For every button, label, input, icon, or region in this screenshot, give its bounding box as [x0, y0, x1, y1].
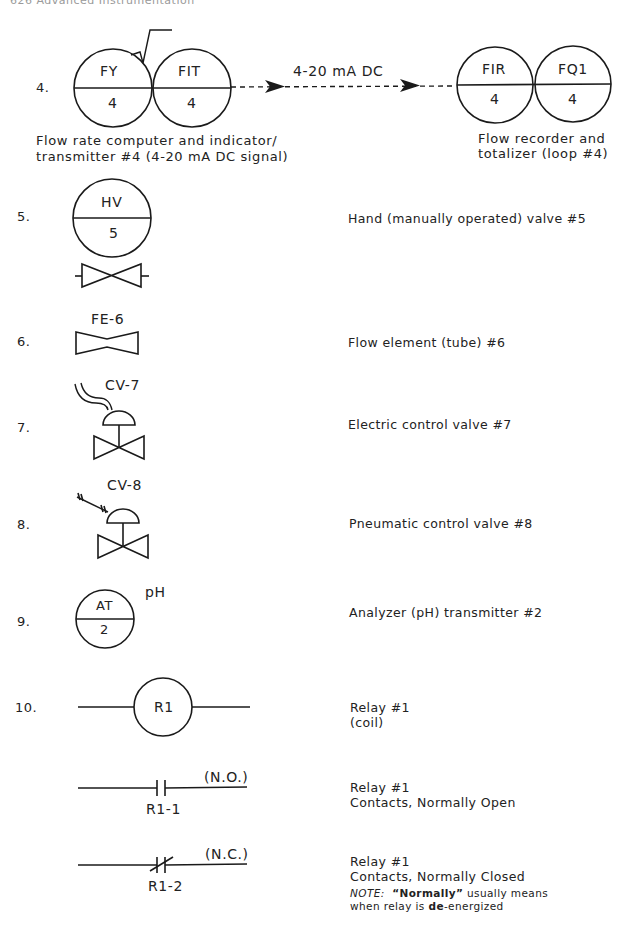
description-pneumatic-control-valve: Pneumatic control valve #8	[349, 516, 533, 531]
cv-8-label: CV-8	[107, 477, 142, 493]
hv-loop: 5	[109, 225, 119, 241]
fir-loop: 4	[490, 91, 500, 107]
at-tag: AT	[96, 598, 113, 614]
nc-contact-line-2: Contacts, Normally Closed	[350, 869, 548, 884]
fq1-tag: FQ1	[558, 61, 588, 77]
description-relay-coil: Relay #1 (coil)	[350, 700, 410, 730]
fy-loop: 4	[108, 95, 118, 111]
relay-coil-line-1: Relay #1	[350, 700, 410, 715]
hand-valve-icon	[75, 264, 149, 287]
hv-symbol	[73, 179, 151, 257]
nc-type-label: (N.C.)	[205, 846, 249, 862]
fy-fit-symbol	[74, 30, 231, 127]
right-caption-line-2: totalizer (loop #4)	[478, 146, 608, 162]
note-prefix: NOTE:	[350, 887, 385, 899]
right-caption-line-1: Flow recorder and	[478, 131, 605, 147]
note-mid: usually means	[463, 887, 548, 899]
fy-tag: FY	[100, 63, 118, 79]
signal-label: 4-20 mA DC	[293, 63, 383, 79]
at-loop: 2	[100, 622, 109, 638]
relay-coil-label: R1	[154, 699, 174, 715]
note-line2-post: -energized	[444, 900, 504, 912]
description-hand-valve: Hand (manually operated) valve #5	[348, 211, 586, 226]
note-line2-pre: when relay is	[350, 900, 428, 912]
description-flow-element: Flow element (tube) #6	[348, 335, 505, 350]
nc-contact-label: R1-2	[148, 878, 183, 894]
note-line2-bold: de	[428, 900, 443, 912]
relay-coil-line-2: (coil)	[350, 715, 410, 730]
no-contact-line-2: Contacts, Normally Open	[350, 795, 516, 810]
fir-fq1-symbol	[457, 46, 611, 123]
hv-tag: HV	[101, 194, 122, 210]
signal-line-dashed	[231, 86, 456, 87]
fit-tag: FIT	[178, 63, 201, 79]
no-contact-line-1: Relay #1	[350, 780, 516, 795]
description-nc-contact: Relay #1 Contacts, Normally Closed NOTE:…	[350, 854, 548, 913]
description-electric-control-valve: Electric control valve #7	[348, 417, 512, 432]
fit-loop: 4	[187, 95, 197, 111]
fir-tag: FIR	[482, 61, 506, 77]
nc-contact-line-1: Relay #1	[350, 854, 548, 869]
left-caption-line-1: Flow rate computer and indicator/	[36, 133, 277, 149]
instrument-symbols-page: 626 Advanced Instrumentation 4. 5. 6. 7.…	[0, 0, 620, 930]
description-no-contact: Relay #1 Contacts, Normally Open	[350, 780, 516, 810]
ph-annotation: pH	[145, 584, 166, 600]
flow-element-icon	[76, 332, 138, 354]
no-contact-label: R1-1	[146, 801, 181, 817]
fe-6-label: FE-6	[91, 311, 124, 327]
cv-7-label: CV-7	[105, 377, 140, 393]
pneumatic-control-valve-icon	[77, 493, 148, 558]
electric-control-valve-icon	[75, 383, 144, 459]
note-quoted: “Normally”	[392, 887, 463, 899]
no-type-label: (N.O.)	[204, 769, 248, 785]
description-analyzer-transmitter: Analyzer (pH) transmitter #2	[349, 605, 542, 620]
left-caption-line-2: transmitter #4 (4-20 mA DC signal)	[36, 149, 288, 165]
fq1-loop: 4	[568, 91, 578, 107]
note: NOTE: “Normally” usually means when rela…	[350, 887, 548, 913]
